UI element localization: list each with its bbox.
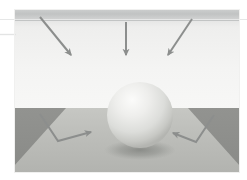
- scene-illustration: [0, 0, 247, 180]
- sphere: [107, 82, 173, 148]
- wall-top-band: [14, 9, 240, 20]
- render-viewport: [0, 0, 247, 180]
